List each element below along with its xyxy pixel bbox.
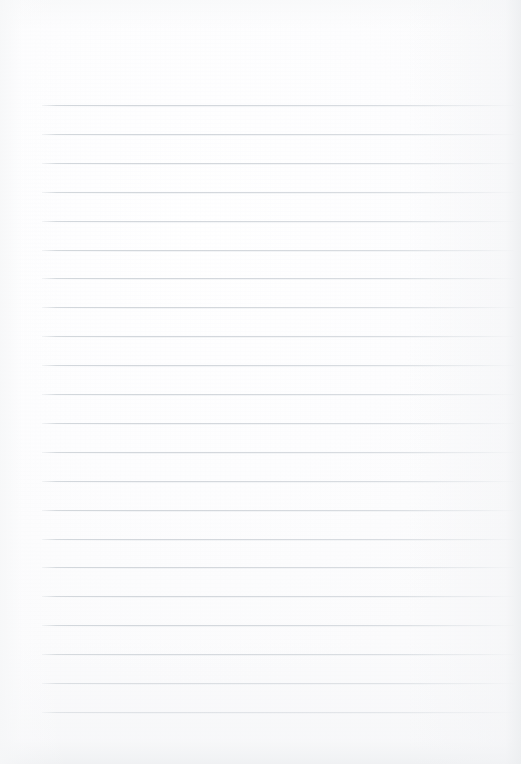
rule-line <box>42 221 514 222</box>
rule-line <box>42 134 514 135</box>
rule-line <box>42 394 514 395</box>
rule-line <box>42 539 514 540</box>
rule-line <box>42 654 514 655</box>
rule-line <box>42 105 514 106</box>
rule-line <box>42 250 514 251</box>
rule-line <box>42 510 514 511</box>
rule-line <box>42 163 514 164</box>
rule-line <box>42 423 514 424</box>
rule-line <box>42 712 514 713</box>
rule-line <box>42 567 514 568</box>
rule-line <box>42 307 514 308</box>
rule-line <box>42 481 514 482</box>
rule-line <box>42 336 514 337</box>
rule-line <box>42 365 514 366</box>
rule-line <box>42 452 514 453</box>
rule-line <box>42 625 514 626</box>
ruled-lines-group <box>0 0 521 764</box>
rule-line <box>42 596 514 597</box>
rule-line <box>42 278 514 279</box>
lined-paper-page <box>0 0 521 764</box>
rule-line <box>42 683 514 684</box>
rule-line <box>42 192 514 193</box>
